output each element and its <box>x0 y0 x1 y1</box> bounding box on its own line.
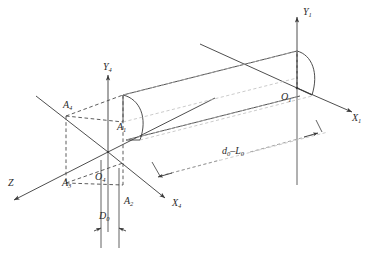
d0-arrow-left <box>94 228 101 231</box>
point-label-a3: A3 <box>62 178 71 188</box>
edge-a4-a1 <box>66 95 123 116</box>
edge-a4-diag <box>66 116 123 122</box>
edge-a3-a2 <box>66 183 123 185</box>
origin-o1-dot <box>296 87 299 90</box>
point-label-a4: A4 <box>63 100 72 110</box>
axis-z-line <box>14 152 108 200</box>
d0-arrow-right <box>119 228 126 231</box>
beam-right-base <box>297 88 312 95</box>
dimension-label-d0: D0 <box>99 211 109 221</box>
axis-label-x1: X1 <box>352 113 361 123</box>
point-label-a1: A1 <box>117 122 126 132</box>
frame-1-axes <box>200 17 352 185</box>
len-tick-right <box>316 120 322 132</box>
axis-x4-line <box>108 152 165 198</box>
proj-mid <box>123 78 297 122</box>
axis-label-z: Z <box>8 178 14 188</box>
figure-canvas: Y1 X1 O1 Y4 X4 O4 Z A1 A2 A3 A4 D0 d0–L0 <box>0 0 369 257</box>
len-tick-left <box>152 162 160 176</box>
len-arrow-right <box>304 133 318 137</box>
origin-markers <box>107 87 298 153</box>
axis-label-y4: Y4 <box>103 62 112 72</box>
axis-label-y1: Y1 <box>303 7 312 17</box>
diagram-svg <box>0 0 369 257</box>
beam-right-end-arc <box>297 51 315 95</box>
origin-label-o1: O1 <box>281 92 291 102</box>
origin-label-o4: O4 <box>95 172 105 182</box>
axis-label-x4: X4 <box>172 198 181 208</box>
origin-o4-dot <box>107 151 109 153</box>
dimension-label-length: d0–L0 <box>222 146 244 156</box>
point-label-a2: A2 <box>124 196 133 206</box>
len-arrow-left <box>158 173 172 177</box>
proj-low <box>140 96 312 140</box>
